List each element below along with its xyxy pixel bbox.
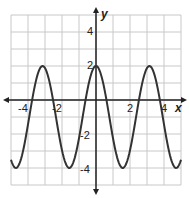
y-tick-2: 2 xyxy=(87,59,93,71)
y-axis-label: y xyxy=(100,7,109,21)
y-tick-neg2: -2 xyxy=(80,129,90,141)
x-tick-2: 2 xyxy=(127,102,133,114)
x-tick-neg2: -2 xyxy=(52,102,62,114)
y-tick-4: 4 xyxy=(87,25,93,37)
x-tick-4: 4 xyxy=(161,102,167,114)
graph: y x -4 -2 2 4 4 2 -2 -4 xyxy=(0,0,189,198)
x-axis-label: x xyxy=(174,101,183,115)
coordinate-plane: y x -4 -2 2 4 4 2 -2 -4 xyxy=(0,0,189,198)
x-tick-neg4: -4 xyxy=(18,102,28,114)
y-tick-neg4: -4 xyxy=(80,163,90,175)
